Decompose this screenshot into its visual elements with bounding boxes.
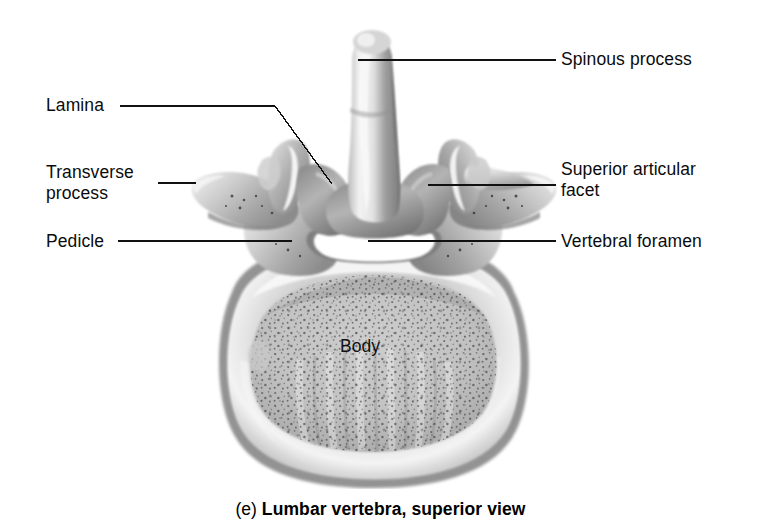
caption-index: (e)	[235, 499, 256, 520]
label-body: Body	[340, 336, 380, 357]
spinous-process-group	[326, 30, 424, 239]
label-lamina: Lamina	[46, 95, 104, 116]
label-transverse-process-line2: process	[46, 183, 108, 203]
anatomy-figure: Lamina Transverseprocess Pedicle Spinous…	[0, 0, 761, 489]
figure-page: Lamina Transverseprocess Pedicle Spinous…	[0, 0, 761, 529]
vertebral-body-group	[219, 238, 529, 488]
label-spinous-process: Spinous process	[561, 49, 692, 70]
label-superior-articular-facet-line2: facet	[561, 180, 599, 200]
label-superior-articular-facet: Superior articularfacet	[561, 159, 696, 201]
label-transverse-process: Transverseprocess	[46, 162, 134, 204]
caption-title: Lumbar vertebra, superior view	[262, 499, 526, 520]
label-superior-articular-facet-line1: Superior articular	[561, 159, 696, 179]
label-transverse-process-line1: Transverse	[46, 162, 134, 182]
label-vertebral-foramen: Vertebral foramen	[561, 231, 702, 252]
label-pedicle: Pedicle	[46, 231, 104, 252]
figure-caption: (e)Lumbar vertebra, superior view	[0, 489, 761, 529]
